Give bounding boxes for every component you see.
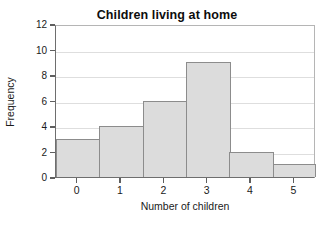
chart-title: Children living at home xyxy=(0,8,334,22)
x-axis-tick-label: 3 xyxy=(196,185,218,196)
x-axis-tick xyxy=(206,178,207,183)
x-axis-tick xyxy=(249,178,250,183)
x-axis-tick xyxy=(76,178,77,183)
y-axis-tick-label: 2 xyxy=(25,148,47,158)
bar xyxy=(143,101,188,178)
x-axis-tick-label: 0 xyxy=(66,185,88,196)
bar xyxy=(273,164,316,177)
y-axis-title: Frequency xyxy=(0,25,20,178)
bar xyxy=(186,62,231,177)
y-axis-title-label: Frequency xyxy=(4,77,16,127)
x-axis-title: Number of children xyxy=(55,200,315,212)
y-axis-tick-label: 12 xyxy=(25,20,47,30)
bar-series xyxy=(56,26,314,177)
bar xyxy=(229,152,274,178)
x-axis-tick-label: 5 xyxy=(282,185,304,196)
x-axis-tick-label: 2 xyxy=(152,185,174,196)
x-axis-tick xyxy=(163,178,164,183)
y-axis-tick-label: 6 xyxy=(25,97,47,107)
x-axis-tick-label: 1 xyxy=(109,185,131,196)
y-axis-tick-label: 0 xyxy=(25,173,47,183)
plot-area xyxy=(55,25,315,178)
bar xyxy=(56,139,101,177)
y-axis-tick-label: 4 xyxy=(25,122,47,132)
histogram-figure: Children living at home Frequency Number… xyxy=(0,0,334,226)
y-axis-tick-label: 10 xyxy=(25,46,47,56)
x-axis-tick-label: 4 xyxy=(239,185,261,196)
x-axis-tick xyxy=(119,178,120,183)
x-axis-tick xyxy=(293,178,294,183)
y-axis-tick-label: 8 xyxy=(25,71,47,81)
bar xyxy=(99,126,144,177)
